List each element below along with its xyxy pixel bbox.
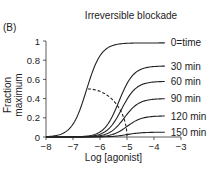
y-axis-label: Fraction maximum — [2, 55, 24, 135]
series-label: 150 min — [171, 127, 207, 138]
axes: 00.20.40.60.81−8−7−6−5−4−3 — [27, 36, 187, 153]
x-axis-label: Log [agonist] — [46, 152, 181, 163]
x-tick-label: −8 — [41, 141, 52, 152]
series-line — [46, 43, 165, 137]
y-tick-label: 0.4 — [27, 93, 40, 104]
y-tick-label: 0.6 — [27, 74, 40, 85]
x-tick-label: −5 — [122, 141, 133, 152]
series-label: 120 min — [171, 111, 207, 122]
curves — [46, 43, 165, 137]
x-tick-label: −7 — [68, 141, 79, 152]
series-label: 0=time — [171, 37, 202, 48]
series-label: 90 min — [171, 93, 201, 104]
x-tick-label: −3 — [176, 141, 187, 152]
series-line — [46, 81, 165, 137]
y-tick-label: 0.8 — [27, 55, 40, 66]
series-line — [46, 66, 165, 137]
x-tick-label: −6 — [95, 141, 106, 152]
x-tick-label: −4 — [149, 141, 160, 152]
series-label: 30 min — [171, 61, 201, 72]
y-tick-label: 0.2 — [27, 112, 40, 123]
legend-labels: 0=time30 min60 min90 min120 min150 min — [171, 37, 207, 137]
y-tick-label: 0 — [35, 132, 40, 143]
series-label: 60 min — [171, 76, 201, 87]
y-tick-label: 1 — [35, 36, 40, 47]
